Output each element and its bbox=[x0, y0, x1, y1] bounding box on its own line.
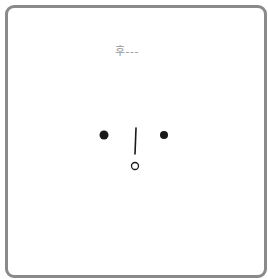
mouth-icon bbox=[132, 163, 139, 170]
left-eye-icon bbox=[100, 131, 109, 140]
nose-line-icon bbox=[135, 128, 136, 154]
right-eye-icon bbox=[160, 131, 168, 139]
face-drawing bbox=[0, 0, 268, 279]
